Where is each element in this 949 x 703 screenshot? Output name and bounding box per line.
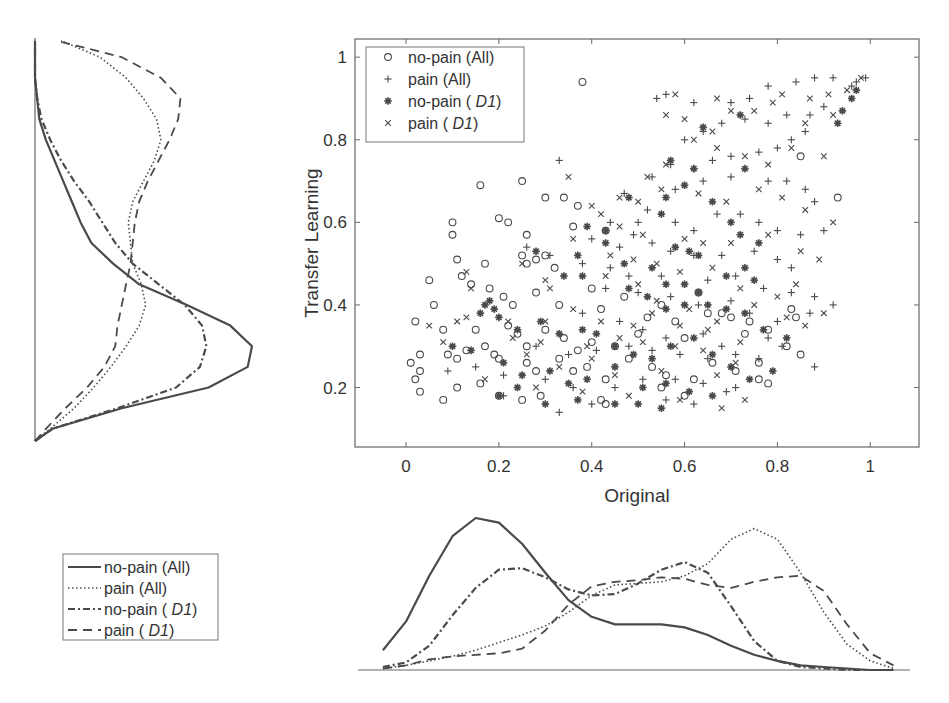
data-point	[765, 82, 772, 89]
data-point	[690, 334, 698, 342]
data-point	[770, 100, 776, 106]
left-density-dotted	[35, 41, 161, 441]
data-point	[826, 92, 832, 98]
data-point	[793, 281, 799, 287]
scatter-legend-label: no-pain (All)	[408, 49, 494, 66]
scatter-legend: no-pain (All)pain (All)no-pain ( D1)pain…	[366, 47, 524, 142]
scatter-legend-label: pain (All)	[408, 71, 471, 88]
data-point	[821, 310, 827, 316]
data-point	[630, 231, 637, 238]
data-point	[468, 286, 474, 292]
data-point	[449, 219, 456, 226]
data-point	[732, 384, 739, 391]
data-point	[417, 368, 424, 375]
data-point	[755, 376, 762, 383]
data-point	[658, 404, 666, 412]
bottom-density-solid	[383, 518, 894, 670]
data-point	[509, 302, 516, 309]
data-point	[714, 372, 720, 378]
data-point	[816, 257, 822, 263]
data-point	[626, 393, 632, 399]
data-point	[727, 173, 734, 180]
data-point	[705, 327, 711, 333]
data-point	[431, 302, 438, 309]
data-point	[746, 95, 753, 102]
data-point	[625, 194, 633, 202]
data-point	[649, 310, 655, 316]
data-point	[523, 359, 530, 366]
data-point	[736, 111, 744, 119]
data-point	[454, 256, 461, 263]
data-point	[579, 272, 587, 280]
data-point	[700, 240, 706, 246]
data-point	[672, 219, 679, 226]
data-point	[830, 112, 836, 118]
data-point	[621, 293, 628, 300]
data-point	[490, 305, 498, 313]
data-point	[635, 330, 642, 337]
data-point	[677, 269, 683, 275]
data-point	[811, 198, 818, 205]
data-point	[477, 182, 484, 189]
data-point	[580, 389, 586, 395]
data-point	[765, 232, 771, 238]
data-point	[704, 277, 711, 284]
data-point	[611, 384, 618, 391]
data-point	[779, 92, 785, 98]
data-point	[792, 78, 799, 85]
data-point	[500, 359, 508, 367]
data-point	[518, 371, 526, 379]
data-point	[750, 276, 758, 284]
data-point	[727, 99, 734, 106]
data-point	[477, 309, 485, 317]
data-point	[625, 272, 632, 279]
data-point	[820, 227, 827, 234]
data-point	[589, 356, 595, 362]
data-point	[602, 285, 609, 292]
data-point	[579, 260, 586, 267]
data-point	[579, 326, 587, 334]
data-point	[718, 343, 725, 350]
data-point	[677, 323, 683, 329]
data-point	[611, 363, 619, 371]
data-point	[519, 178, 526, 185]
data-point	[783, 334, 791, 342]
data-point	[510, 335, 516, 341]
scatter-legend-label: pain ( D1)	[408, 115, 478, 132]
data-point	[741, 264, 749, 272]
data-point	[848, 95, 856, 103]
data-point	[625, 285, 633, 293]
data-point	[616, 244, 623, 251]
data-point	[714, 145, 720, 151]
data-point	[659, 368, 665, 374]
data-point	[454, 319, 460, 325]
data-point	[505, 319, 511, 325]
data-point	[830, 74, 837, 81]
data-point	[727, 153, 734, 160]
data-point	[555, 330, 563, 338]
data-point	[662, 280, 670, 288]
data-point	[690, 165, 698, 173]
data-point	[690, 400, 697, 407]
data-point	[751, 108, 757, 114]
data-point	[709, 351, 717, 359]
data-point	[751, 302, 757, 308]
data-point	[653, 95, 660, 102]
data-point	[523, 231, 530, 238]
x-tick-label: 0.4	[580, 457, 604, 476]
data-point	[700, 177, 707, 184]
data-point	[616, 318, 623, 325]
data-point	[830, 220, 836, 226]
data-point	[500, 372, 507, 379]
legend-marker-star	[384, 97, 392, 105]
data-point	[718, 252, 725, 259]
data-point	[704, 310, 711, 317]
data-point	[648, 347, 655, 354]
data-point	[662, 380, 670, 388]
data-point	[617, 224, 623, 230]
data-point	[602, 401, 609, 408]
data-point	[746, 318, 753, 325]
data-point	[797, 231, 804, 238]
data-point	[797, 351, 804, 358]
data-point	[486, 297, 494, 305]
